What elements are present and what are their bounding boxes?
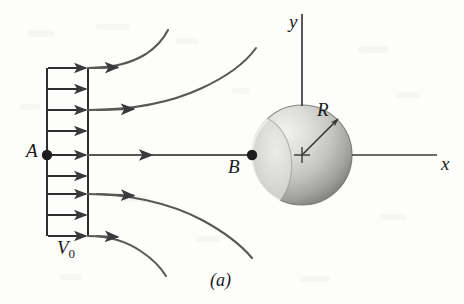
point-b-label: B: [228, 157, 240, 176]
velocity-arrows: [48, 68, 86, 236]
velocity-symbol: V: [57, 237, 69, 258]
y-axis-label: y: [289, 12, 297, 31]
streamline-lower-inner: [88, 194, 252, 258]
velocity-label: V0: [57, 238, 75, 260]
velocity-subscript: 0: [69, 246, 76, 261]
streamline-upper-outer: [88, 30, 168, 68]
streamline-upper-inner: [88, 48, 256, 110]
radius-label: R: [317, 100, 329, 119]
page-texture: [20, 24, 420, 282]
figure-container: A B R y x V0 (a): [0, 0, 464, 304]
streamline-arrowheads: [96, 67, 152, 237]
point-a-marker: [42, 150, 52, 160]
x-axis-label: x: [441, 154, 449, 173]
velocity-profile-grid: [47, 68, 88, 236]
figure-caption: (a): [210, 271, 231, 289]
point-a-label: A: [26, 141, 38, 160]
streamline-lower-outer: [88, 236, 166, 276]
point-b-marker: [247, 150, 257, 160]
